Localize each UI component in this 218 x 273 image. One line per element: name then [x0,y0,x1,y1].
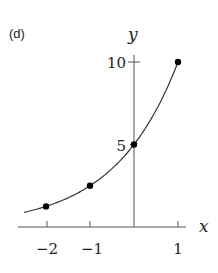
x-ticks [47,221,178,227]
x-tick-label-1: 1 [173,240,183,258]
data-points [43,59,181,210]
exponential-curve [24,62,178,212]
data-point [43,203,49,209]
y-tick-label-5: 5 [116,137,126,155]
chart: (d) −2 −1 1 10 5 x y [0,0,218,273]
data-point [87,183,93,189]
data-point [131,141,137,147]
data-point [175,59,181,65]
x-tick-label-minus1: −1 [81,240,103,258]
y-axis-label: y [127,24,138,44]
x-tick-label-minus2: −2 [36,240,58,258]
x-axis-label: x [199,216,209,236]
y-tick-label-10: 10 [107,54,126,72]
panel-label: (d) [9,26,25,41]
